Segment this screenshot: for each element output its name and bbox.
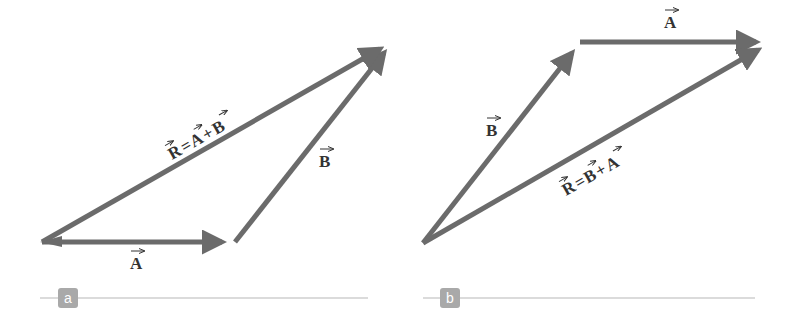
label-vector-a: A [130, 251, 144, 273]
vector-addition-diagram: A B R=A+B a A [0, 0, 793, 326]
label-vector-a-b: A [664, 10, 678, 32]
label-equation-r-b: R=B+A [558, 147, 631, 200]
vector-b-arrow [235, 53, 384, 242]
vector-b-arrow-b [423, 53, 572, 243]
svg-text:B: B [319, 152, 330, 171]
label-vector-b-b: B [486, 118, 500, 140]
svg-text:A: A [664, 13, 677, 32]
panel-b: A B R=B+A b [423, 10, 758, 308]
vector-r-arrow-b [423, 50, 758, 243]
panel-b-badge-label: b [446, 290, 454, 306]
vector-r-arrow [42, 49, 380, 242]
svg-text:A: A [130, 254, 143, 273]
svg-text:B: B [486, 121, 497, 140]
panel-a-badge-label: a [64, 290, 72, 306]
panel-a: A B R=A+B a [40, 49, 384, 308]
label-vector-b: B [319, 149, 333, 171]
